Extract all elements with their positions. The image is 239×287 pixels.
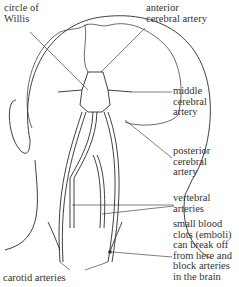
leader-willis	[30, 32, 88, 90]
leader-vertebral	[72, 205, 174, 214]
leader-posterior	[125, 120, 172, 158]
label-carotid-arteries: carotid arteries	[3, 273, 66, 284]
carotid-right	[104, 112, 115, 262]
leader-emboli	[112, 252, 172, 257]
vertebral-left	[70, 112, 93, 228]
vertebral-right	[93, 155, 101, 228]
brain-midline	[84, 25, 88, 72]
embolus-dot	[108, 250, 112, 254]
neck-left	[5, 160, 37, 250]
label-middle-cerebral-artery: middle cerebral artery	[173, 86, 207, 118]
label-anterior-cerebral-artery: anterior cerebral artery	[146, 3, 207, 24]
left-ear	[9, 100, 30, 153]
label-emboli-note: small blood clots (emboli) can break off…	[173, 219, 232, 282]
label-posterior-cerebral-artery: posterior cerebral artery	[173, 146, 210, 178]
leader-anterior	[101, 28, 145, 72]
label-circle-of-willis: circle of Willis	[4, 3, 39, 24]
label-vertebral-arteries: vertebral arteries	[173, 193, 210, 214]
leader-carotid	[60, 262, 108, 270]
circle-of-willis	[80, 72, 110, 112]
